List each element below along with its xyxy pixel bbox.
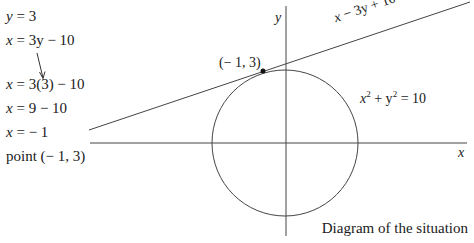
circle-equation-label: x2 + y2 = 10	[360, 89, 426, 107]
tangent-point	[261, 69, 266, 74]
x-axis-label: x	[458, 145, 464, 161]
point-label: (− 1, 3)	[219, 55, 261, 71]
diagram-canvas	[0, 0, 474, 243]
diagram-caption: Diagram of the situation	[322, 220, 468, 237]
y-axis-label: y	[275, 10, 281, 26]
substitution-arrow	[37, 53, 45, 79]
